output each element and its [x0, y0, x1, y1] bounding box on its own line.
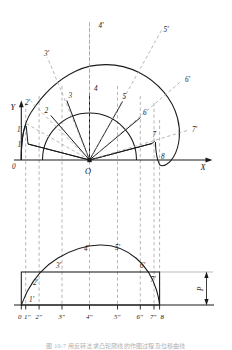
- dimension-label-p: P: [197, 286, 205, 292]
- displacement-curve: [21, 245, 159, 305]
- upper-point-label-1prime: 1': [17, 126, 23, 134]
- inner-chord-polyline: [26, 126, 89, 160]
- lower-tick-label-5: 5": [114, 313, 120, 320]
- lower-point-label-2prime: 2': [33, 279, 39, 287]
- axis-label-origin: O: [85, 167, 91, 176]
- upper-point-label-4prime: 4': [99, 22, 105, 30]
- lower-point-label-1prime: 1': [29, 296, 35, 304]
- upper-point-label-5: 5: [123, 93, 127, 101]
- upper-point-label-6prime: 6': [185, 76, 191, 84]
- lower-diagram: P 0 1" 2" 3" 4" 5" 6" 7" 8: [14, 244, 214, 320]
- upper-point-label-2prime: 2': [25, 99, 31, 107]
- lower-tick-label-6: 6": [137, 313, 143, 320]
- lower-point-label-7prime: 7': [151, 276, 157, 284]
- lower-tick-label-0: 0: [18, 313, 22, 320]
- upper-point-label-5prime: 5': [164, 26, 170, 34]
- radial-line-2: [51, 116, 90, 161]
- radial-line-3: [67, 101, 90, 161]
- profile-right-closing-arc: [155, 142, 159, 165]
- dimension-p: P: [160, 272, 213, 306]
- upper-point-label-2: 2: [45, 107, 49, 115]
- ray-to-1prime: [25, 123, 90, 161]
- lower-tick-marks-group: [21, 305, 159, 310]
- dimension-arrow-top: [204, 272, 208, 279]
- lower-tick-label-3: 3": [58, 313, 65, 320]
- origin-marker: [87, 158, 91, 162]
- upper-point-label-4: 4: [94, 85, 98, 93]
- y-axis-arrowhead: [19, 101, 24, 108]
- radial-line-1: [28, 144, 90, 160]
- figure-caption: 图 10-7 用反转法求凸轮廓线的作图过程及位移曲线: [0, 341, 232, 350]
- upper-point-label-3prime: 3': [43, 50, 50, 58]
- axis-label-y: Y: [11, 103, 17, 112]
- lower-point-label-4prime: 4': [84, 245, 90, 253]
- displacement-frame: [21, 272, 159, 305]
- upper-origin-label-0: 0: [12, 163, 16, 171]
- figure-root: Y X O 0 8 1 2 3 4 5 6 7 1' 2' 3' 4' 5' 6…: [0, 0, 232, 350]
- upper-point-label-3: 3: [68, 92, 73, 100]
- lower-point-label-3prime: 3': [55, 262, 62, 270]
- lower-tick-label-2: 2": [36, 313, 42, 320]
- x-axis-arrowhead: [206, 158, 213, 163]
- upper-point-label-7: 7: [153, 131, 157, 139]
- lower-point-label-5prime: 5': [115, 244, 121, 252]
- upper-point-label-6: 6: [143, 109, 147, 117]
- lower-tick-label-4: 4": [86, 313, 92, 320]
- x-axis: [14, 158, 213, 163]
- lower-tick-label-1: 1": [24, 313, 30, 320]
- upper-end-label-8: 8: [161, 153, 165, 161]
- upper-point-label-7prime: 7': [192, 126, 198, 134]
- axis-label-x: X: [200, 163, 207, 172]
- radial-lines-group: [28, 93, 152, 160]
- technical-drawing-svg: Y X O 0 8 1 2 3 4 5 6 7 1' 2' 3' 4' 5' 6…: [0, 0, 232, 350]
- lower-point-label-6prime: 6': [140, 262, 146, 270]
- upper-point-label-1: 1: [18, 141, 22, 149]
- upper-diagram: Y X O 0 8 1 2 3 4 5 6 7 1' 2' 3' 4' 5' 6…: [11, 22, 213, 305]
- lower-tick-label-7: 7": [150, 313, 156, 320]
- lower-tick-label-8: 8: [161, 313, 165, 320]
